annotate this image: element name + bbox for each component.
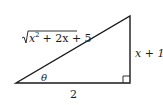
triangle-diagram: x 2 + 2x + 5 x + 1 θ 2: [0, 0, 163, 105]
angle-label: θ: [41, 72, 47, 83]
right-angle-marker: [123, 76, 130, 83]
vertical-leg-label: x + 1: [135, 47, 163, 60]
triangle: [16, 16, 130, 83]
horizontal-leg-label: 2: [70, 88, 77, 101]
hypotenuse-rest: + 2x + 5: [39, 32, 92, 45]
